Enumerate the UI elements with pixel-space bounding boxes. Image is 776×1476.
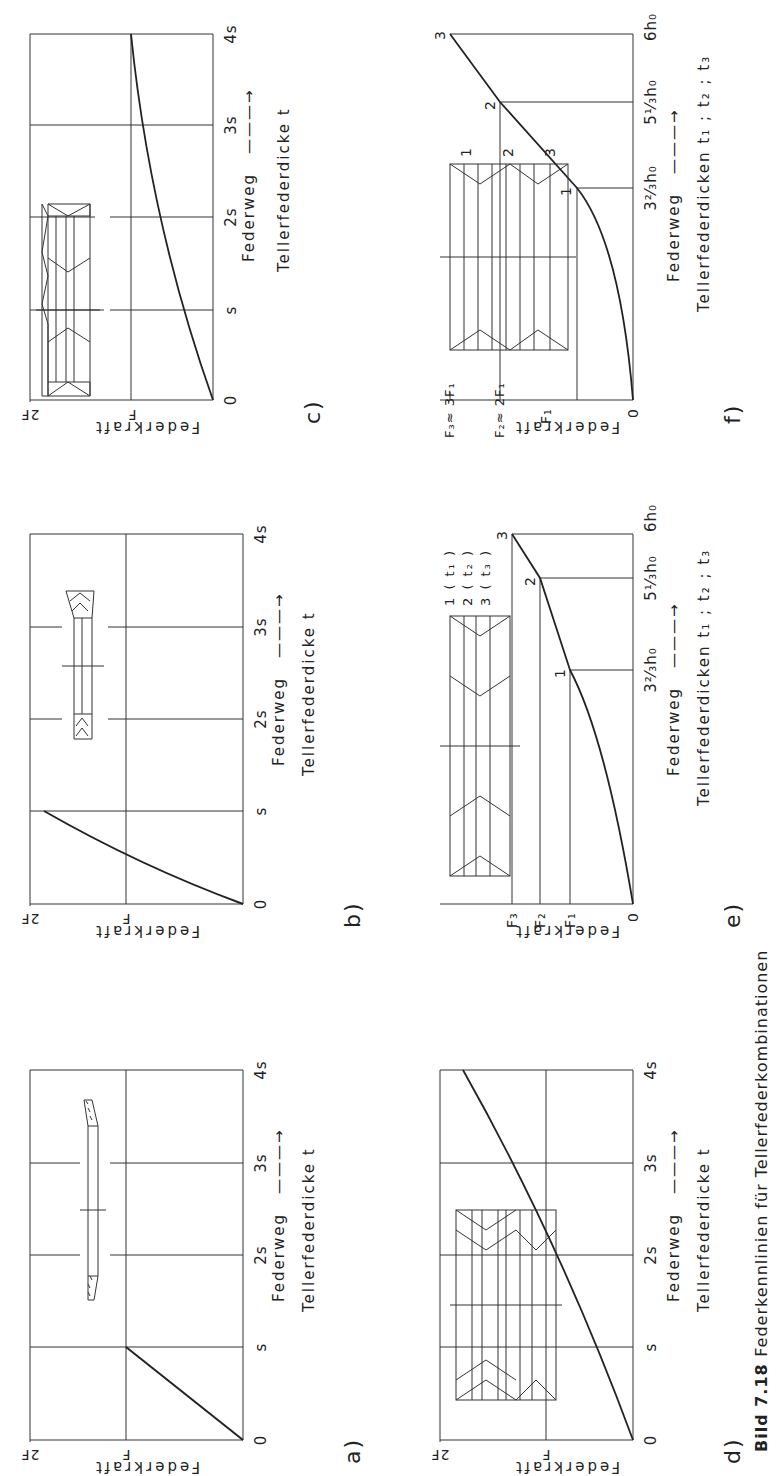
xtick-3-2-3h0: 3²⁄₃h₀ xyxy=(642,647,660,693)
x-axis-arrow: ———→ xyxy=(665,1128,683,1194)
xtick-2s: 2s xyxy=(252,1245,270,1264)
legend-t2: 2 ( t₂ ) xyxy=(460,549,475,606)
point-1: 1 xyxy=(552,669,568,678)
point-3: 3 xyxy=(432,31,448,40)
ytick-F3: F₃≈ 3F₁ xyxy=(442,382,457,438)
panel-id: f) xyxy=(720,404,745,424)
xtick-3s: 3s xyxy=(642,1153,660,1172)
x-axis-arrow: ———→ xyxy=(270,592,288,658)
figure-caption: Bild 7.18 Federkennlinien für Tellerfede… xyxy=(752,950,771,1452)
xtick-4s: 4s xyxy=(222,24,240,43)
caption-label: Bild 7.18 xyxy=(752,1363,771,1452)
panel-id: a) xyxy=(340,1438,365,1464)
xtick-0: 0 xyxy=(642,1435,660,1446)
y-axis-label: Federkraft xyxy=(513,1458,620,1476)
xtick-2s: 2s xyxy=(642,1245,660,1264)
point-3: 3 xyxy=(494,531,510,540)
xtick-3-2-3h0: 3²⁄₃h₀ xyxy=(642,165,660,211)
y-axis-label: Federkraft xyxy=(513,922,620,940)
ytick-0: 0 xyxy=(625,912,641,922)
sublabel: Tellerfederdicke t xyxy=(300,611,318,776)
xtick-3s: 3s xyxy=(252,1153,270,1172)
point-2: 2 xyxy=(482,101,498,110)
ytick-2F: 2F xyxy=(431,1447,450,1463)
xtick-0: 0 xyxy=(252,1435,270,1446)
point-2: 2 xyxy=(522,577,538,586)
panel-id: c) xyxy=(300,399,325,424)
xtick-s: s xyxy=(222,306,240,315)
x-axis-arrow: ———→ xyxy=(240,88,258,154)
y-axis-label: Federkraft xyxy=(93,418,200,436)
disc-spring-column-icon xyxy=(36,204,104,396)
xtick-6h0: 6h₀ xyxy=(642,13,660,41)
legend-t3: 3 ( t₃ ) xyxy=(478,549,493,606)
xtick-4s: 4s xyxy=(252,524,270,543)
ytick-2F: 2F xyxy=(21,407,40,423)
xtick-s: s xyxy=(642,1343,660,1352)
xtick-0: 0 xyxy=(252,899,270,910)
panel-c: 2F F 0 s 2s 3s 4s Federkraft Federweg ——… xyxy=(0,2,370,432)
ytick-2F: 2F xyxy=(21,911,40,927)
y-axis-label: Federkraft xyxy=(93,1458,200,1476)
y-axis-label: Federkraft xyxy=(93,922,200,940)
xtick-s: s xyxy=(252,1343,270,1352)
panel-id: d) xyxy=(720,1437,745,1464)
disc-spring-column-icon xyxy=(440,616,520,876)
stack-label-3: 3 xyxy=(542,148,558,157)
y-axis-label: Federkraft xyxy=(513,418,620,436)
xtick-s: s xyxy=(252,807,270,816)
disc-spring-package-icon xyxy=(62,591,104,739)
x-axis-arrow: ———→ xyxy=(665,602,683,668)
x-axis-label: Federweg xyxy=(270,677,288,766)
point-1: 1 xyxy=(558,187,574,196)
xtick-2s: 2s xyxy=(252,709,270,728)
xtick-4s: 4s xyxy=(252,1060,270,1079)
sublabel: Tellerfederdicke t xyxy=(275,107,293,272)
sublabel: Tellerfederdicke t xyxy=(695,1147,713,1312)
x-axis-label: Federweg xyxy=(665,687,683,776)
panel-d: 2F F 0 s 2s 3s 4s Federkraft Federweg ——… xyxy=(420,1002,750,1472)
sublabel: Tellerfederdicken t₁ ; t₂ ; t₃ xyxy=(695,55,713,312)
ytick-0: 0 xyxy=(625,408,641,418)
panel-id: b) xyxy=(340,901,365,928)
stack-label-2: 2 xyxy=(500,148,516,157)
sublabel: Tellerfederdicke t xyxy=(300,1147,318,1312)
x-axis-arrow: ———→ xyxy=(270,1128,288,1194)
x-axis-label: Federweg xyxy=(270,1213,288,1302)
panel-id: e) xyxy=(720,902,745,928)
xtick-4s: 4s xyxy=(642,1060,660,1079)
panel-a: 2F F 0 s 2s 3s 4s Federkraft Federweg ——… xyxy=(0,1002,370,1472)
ytick-2F: 2F xyxy=(21,1447,40,1463)
disc-spring-icon xyxy=(80,1100,106,1300)
x-axis-label: Federweg xyxy=(240,173,258,262)
panel-c-plot xyxy=(0,2,370,432)
stack-label-1: 1 xyxy=(458,148,474,157)
x-axis-label: Federweg xyxy=(665,193,683,282)
legend-t1: 1 ( t₁ ) xyxy=(442,549,457,606)
xtick-3s: 3s xyxy=(252,617,270,636)
caption-text: Federkennlinien für Tellerfederkombinati… xyxy=(752,950,771,1357)
panel-e: F₃ F₂ F₁ 0 3²⁄₃h₀ 5¹⁄₃h₀ 6h₀ 1 2 3 1 ( t… xyxy=(420,466,750,936)
disc-spring-column-icon xyxy=(450,1210,562,1400)
xtick-6h0: 6h₀ xyxy=(642,504,660,532)
xtick-2s: 2s xyxy=(222,207,240,226)
sublabel: Tellerfederdicken t₁ ; t₂ ; t₃ xyxy=(695,549,713,806)
xtick-0: 0 xyxy=(222,395,240,406)
xtick-5-1-3h0: 5¹⁄₃h₀ xyxy=(642,555,660,601)
panel-f: F₃≈ 3F₁ F₂≈ 2F₁ F₁ 0 3²⁄₃h₀ 5¹⁄₃h₀ 6h₀ 1… xyxy=(420,2,750,432)
ytick-F2: F₂≈ 2F₁ xyxy=(492,382,507,438)
xtick-5-1-3h0: 5¹⁄₃h₀ xyxy=(642,79,660,125)
panel-b: 2F F 0 s 2s 3s 4s Federkraft Federweg ——… xyxy=(0,466,370,936)
x-axis-arrow: ———→ xyxy=(665,108,683,174)
xtick-3s: 3s xyxy=(222,115,240,134)
disc-spring-stack-icon xyxy=(440,164,576,350)
x-axis-label: Federweg xyxy=(665,1213,683,1302)
